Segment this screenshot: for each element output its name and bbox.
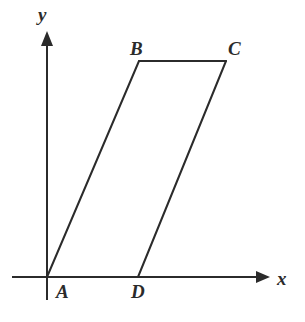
edge-ab [47, 61, 139, 277]
diagram-canvas [0, 0, 305, 322]
vertex-label-d: D [131, 282, 145, 301]
vertex-label-b: B [130, 39, 143, 58]
y-axis-arrowhead [41, 31, 53, 46]
vertex-label-a: A [56, 282, 69, 301]
x-axis-label: x [277, 269, 287, 288]
y-axis-label: y [38, 5, 46, 24]
x-axis-arrowhead [256, 271, 270, 283]
vertex-label-c: C [228, 39, 241, 58]
geometry-figure: y x A B C D [0, 0, 305, 322]
edge-cd [138, 61, 226, 277]
